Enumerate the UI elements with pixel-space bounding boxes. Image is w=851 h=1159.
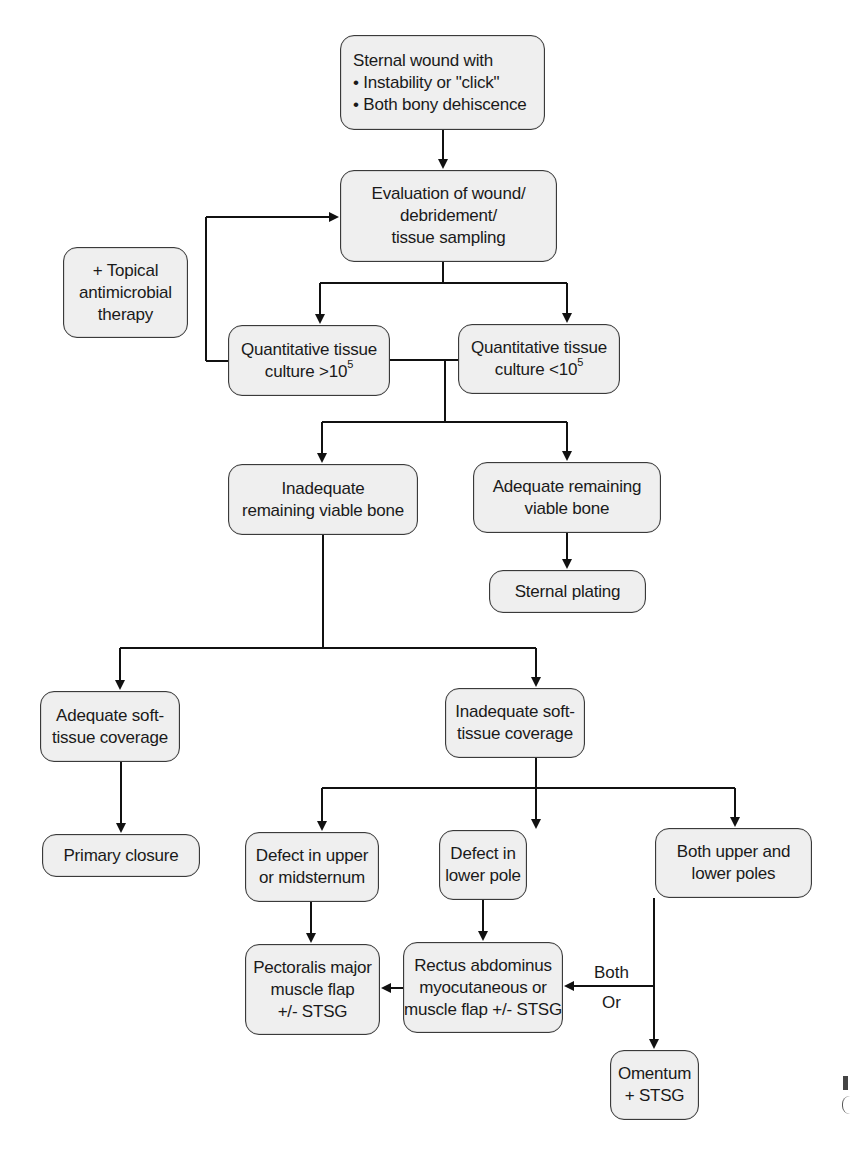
- node-text: Both upper and: [677, 841, 790, 863]
- node-sternal-plating: Sternal plating: [489, 570, 646, 613]
- node-defect-lower: Defect in lower pole: [439, 830, 527, 900]
- node-text: Inadequate soft-: [455, 701, 575, 723]
- clipped-caption-fragment: [843, 1076, 848, 1090]
- node-text: or midsternum: [259, 867, 365, 889]
- node-text: Adequate remaining: [493, 476, 642, 498]
- node-text: lower pole: [445, 865, 521, 887]
- node-culture-high: Quantitative tissue culture >105: [228, 325, 390, 396]
- node-text: Sternal plating: [515, 581, 621, 603]
- node-text: therapy: [98, 304, 153, 326]
- node-adequate-bone: Adequate remaining viable bone: [473, 462, 661, 533]
- node-rectus-flap: Rectus abdominus myocutaneous or muscle …: [403, 942, 563, 1033]
- node-text: Inadequate: [281, 478, 364, 500]
- sternal-wound-flowchart: Sternal wound with • Instability or "cli…: [0, 0, 851, 1159]
- node-culture-low: Quantitative tissue culture <105: [458, 324, 620, 394]
- node-sternal-wound: Sternal wound with • Instability or "cli…: [340, 35, 545, 130]
- node-text: Quantitative tissue: [471, 337, 607, 359]
- node-both-poles: Both upper and lower poles: [655, 828, 812, 898]
- node-text: tissue coverage: [457, 723, 573, 745]
- node-text: myocutaneous or: [419, 977, 546, 999]
- node-adequate-soft-tissue: Adequate soft- tissue coverage: [40, 691, 180, 762]
- node-text: remaining viable bone: [242, 500, 404, 522]
- node-text: Quantitative tissue: [241, 339, 377, 361]
- node-text: +/- STSG: [278, 1001, 348, 1023]
- node-text: Defect in: [450, 843, 515, 865]
- node-bullet: • Both bony dehiscence: [353, 94, 527, 116]
- node-text: lower poles: [692, 863, 776, 885]
- node-text: Primary closure: [63, 845, 178, 867]
- node-topical-antimicrobial: + Topical antimicrobial therapy: [63, 247, 188, 338]
- node-title: Sternal wound with: [353, 50, 493, 72]
- edge-label-or: Or: [602, 993, 621, 1013]
- node-text: Rectus abdominus: [414, 955, 552, 977]
- node-bullet: • Instability or "click": [353, 72, 499, 94]
- node-text: Pectoralis major: [253, 957, 372, 979]
- node-text: debridement/: [400, 205, 497, 227]
- node-text: Adequate soft-: [56, 705, 164, 727]
- node-pectoralis-flap: Pectoralis major muscle flap +/- STSG: [245, 944, 380, 1035]
- node-text-line2: culture <105: [495, 359, 583, 381]
- edge-label-both: Both: [594, 963, 629, 983]
- node-text: muscle flap +/- STSG: [404, 999, 562, 1021]
- node-inadequate-bone: Inadequate remaining viable bone: [228, 464, 418, 535]
- node-omentum: Omentum + STSG: [610, 1050, 699, 1120]
- node-text: + Topical: [93, 260, 158, 282]
- node-evaluation: Evaluation of wound/ debridement/ tissue…: [340, 170, 557, 262]
- clipped-caption-fragment: [842, 1096, 851, 1114]
- node-text: tissue coverage: [52, 727, 168, 749]
- node-text: Defect in upper: [256, 845, 368, 867]
- node-text: + STSG: [625, 1085, 685, 1107]
- node-defect-upper: Defect in upper or midsternum: [245, 832, 379, 902]
- node-text: antimicrobial: [79, 282, 172, 304]
- node-primary-closure: Primary closure: [42, 834, 200, 877]
- node-text-line2: culture >105: [265, 361, 353, 383]
- node-text: Omentum: [618, 1063, 691, 1085]
- node-text: Evaluation of wound/: [372, 183, 526, 205]
- node-text: viable bone: [525, 498, 610, 520]
- node-text: muscle flap: [271, 979, 355, 1001]
- node-text: tissue sampling: [391, 227, 505, 249]
- node-inadequate-soft-tissue: Inadequate soft- tissue coverage: [445, 688, 585, 758]
